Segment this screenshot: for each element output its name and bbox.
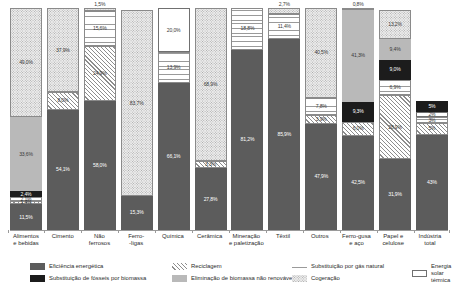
bar-segment[interactable]: 15,6%	[84, 11, 116, 46]
segment-value-label: 49,0%	[19, 60, 33, 65]
x-axis-tick	[192, 230, 193, 233]
segment-value-label: 9,4%	[390, 47, 401, 52]
bar-segment[interactable]: 9,3%	[342, 102, 374, 123]
bar-segment[interactable]: 9,0%	[379, 60, 411, 80]
bar-segment[interactable]: 5%	[416, 123, 448, 134]
bar-segment[interactable]: 9,4%	[379, 39, 411, 60]
segment-value-label: 41,3%	[351, 53, 365, 58]
bar-column[interactable]: 18,8%81,2%	[231, 8, 263, 230]
bar-segment[interactable]: 27,8%	[195, 168, 227, 230]
segment-value-label: 40,5%	[314, 50, 328, 55]
bar-segment[interactable]: 58,0%	[84, 101, 116, 230]
bar-column[interactable]: 40,5%7,8%3,9%47,9%	[305, 8, 337, 230]
segment-value-label: 85,9%	[277, 132, 291, 137]
bar-column[interactable]: 2,7%11,4%85,9%	[268, 8, 300, 230]
bar-segment[interactable]: 66,1%	[158, 83, 190, 230]
bar-segment[interactable]: 6,0%	[342, 122, 374, 135]
legend-item[interactable]: Eliminação de biomassa não renovável	[172, 275, 294, 282]
x-axis-label: Ferro- -ligas	[118, 233, 154, 248]
bar-segment[interactable]: 3,9%	[305, 115, 337, 124]
bar-segment[interactable]: 24,9%	[84, 46, 116, 101]
bar-segment[interactable]: 37,9%	[47, 8, 79, 92]
segment-value-label: 18,8%	[241, 26, 255, 31]
bar-segment[interactable]: 11,5%	[10, 204, 42, 230]
legend-swatch	[30, 263, 45, 270]
bar-column[interactable]: 37,9%8,0%54,1%	[47, 8, 79, 230]
bar-segment[interactable]: 13,2%	[379, 10, 411, 39]
segment-value-label: 20,0%	[167, 28, 181, 33]
segment-value-label: 7,8%	[316, 104, 327, 109]
bar-segment[interactable]: 40,5%	[305, 8, 337, 98]
x-axis-tick	[229, 230, 230, 233]
legend-item[interactable]: Energia solar térmica	[412, 263, 451, 285]
bar-segment[interactable]: 41,3%	[342, 10, 374, 102]
segment-value-label: 28,9%	[388, 125, 402, 130]
segment-value-label: 33,6%	[19, 152, 33, 157]
bar-segment[interactable]: 3,3%	[195, 161, 227, 168]
bar-segment[interactable]: 54,1%	[47, 110, 79, 230]
bar-segment[interactable]: 28,9%	[379, 95, 411, 159]
segment-value-label: 9,0%	[390, 67, 401, 72]
bar-segment[interactable]: 7,8%	[305, 98, 337, 115]
segment-value-label: 11,4%	[278, 24, 291, 29]
bar-column[interactable]: 1,5%15,6%24,9%58,0%	[84, 8, 116, 230]
x-axis-tick	[449, 230, 450, 233]
bar-column[interactable]: 0,8%41,3%9,3%6,0%42,5%	[342, 8, 374, 230]
segment-value-label: 81,2%	[241, 137, 255, 142]
x-axis-label: Química	[155, 233, 191, 248]
legend-item[interactable]: Cogeração	[292, 275, 340, 282]
segment-value-label: 15,3%	[130, 210, 144, 215]
segment-value-label: 42,5%	[351, 180, 365, 185]
x-axis-tick	[44, 230, 45, 233]
legend-label: Reciclagem	[191, 263, 222, 270]
legend-item[interactable]: Substituição de fósseis por biomassa	[30, 275, 146, 282]
bar-segment[interactable]: 13,9%	[158, 52, 190, 83]
bar-segment[interactable]: 11,4%	[268, 14, 300, 39]
segment-value-label: 54,1%	[56, 167, 70, 172]
bar-segment[interactable]: 68,9%	[195, 8, 227, 161]
bar-segment[interactable]: 18,8%	[231, 8, 263, 50]
chart-legend: Eficiência energéticaSubstituição de fós…	[30, 263, 448, 297]
bar-segment[interactable]: 85,9%	[268, 39, 300, 230]
bar-segment[interactable]: 31,9%	[379, 159, 411, 230]
x-axis-label: Indústria total	[412, 233, 448, 248]
bar-segment[interactable]: 83,7%	[121, 10, 153, 196]
bar-segment[interactable]: 15,3%	[121, 196, 153, 230]
bar-segment[interactable]: 3%	[416, 117, 448, 124]
x-axis-tick	[414, 230, 415, 233]
segment-value-label: 13,9%	[167, 65, 181, 70]
segment-value-label: 58,0%	[93, 163, 107, 168]
bar-segment[interactable]: 20,0%	[158, 8, 190, 52]
bar-segment[interactable]: 6,9%	[379, 80, 411, 95]
bar-column[interactable]: 83,7%15,3%	[121, 8, 153, 230]
segment-value-label: 5%	[428, 104, 435, 109]
legend-item[interactable]: Reciclagem	[172, 263, 222, 270]
segment-value-label: 47,9%	[314, 174, 328, 179]
segment-value-label: 2,7%	[279, 2, 290, 7]
stacked-bar-chart: 49,0%33,6%2,4%2,1%1,4%11,5%37,9%8,0%54,1…	[0, 0, 454, 308]
bar-segment[interactable]: 47,9%	[305, 124, 337, 230]
segment-value-label: 31,9%	[388, 192, 402, 197]
x-axis-label: Mineração e paletização	[228, 233, 264, 248]
legend-item[interactable]: Substituição por gás natural	[292, 263, 384, 270]
legend-swatch	[292, 275, 307, 282]
bar-segment[interactable]: 33,6%	[10, 117, 42, 192]
bar-column[interactable]: 68,9%3,3%27,8%	[195, 8, 227, 230]
bar-segment[interactable]: 49,0%	[10, 8, 42, 117]
bar-segment[interactable]: 43%	[416, 135, 448, 230]
segment-value-label: 9,3%	[353, 109, 364, 114]
bar-column[interactable]: 13,2%9,4%9,0%6,9%28,9%31,9%	[379, 8, 411, 230]
legend-label: Cogeração	[311, 275, 340, 282]
legend-swatch	[30, 275, 45, 282]
legend-item[interactable]: Eficiência energética	[30, 263, 103, 270]
legend-swatch	[172, 275, 187, 282]
x-axis-label: Papel e celulose	[375, 233, 411, 248]
segment-value-label: 1,5%	[94, 2, 105, 7]
bar-segment[interactable]: 81,2%	[231, 50, 263, 230]
legend-swatch	[412, 270, 427, 277]
bar-segment[interactable]: 42,5%	[342, 136, 374, 230]
bar-column[interactable]: 20,0%13,9%66,1%	[158, 8, 190, 230]
bar-column[interactable]: 49,0%33,6%2,4%2,1%1,4%11,5%	[10, 8, 42, 230]
bar-column[interactable]: 5%2%3%5%43%	[416, 8, 448, 230]
bar-segment[interactable]: 8,0%	[47, 92, 79, 110]
